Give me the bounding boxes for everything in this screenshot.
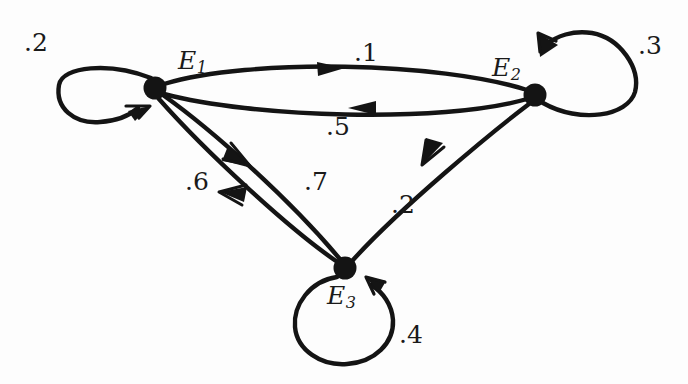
node-e3[interactable] <box>334 257 357 280</box>
node-label-e2-subscript: 2 <box>511 65 521 84</box>
edge-weight-e1-e1: .2 <box>24 30 48 55</box>
edge-weight-e1-e3: .7 <box>304 169 328 194</box>
node-e1[interactable] <box>144 77 167 100</box>
node-label-e1-subscript: 1 <box>197 58 207 77</box>
node-label-e2-text: E <box>492 53 510 82</box>
edge-e2-e2 <box>538 32 636 115</box>
graph-canvas <box>0 0 688 384</box>
state-transition-diagram: E1 E2 E3 .2 .3 .4 .1 .5 .7 .6 .2 <box>0 0 688 384</box>
edge-weight-e3-e1: .6 <box>185 169 209 194</box>
node-label-e3-text: E <box>327 281 345 310</box>
edge-weight-e2-e3: .2 <box>391 192 415 217</box>
node-label-e3: E3 <box>327 283 356 311</box>
edge-e2-e3 <box>353 104 529 260</box>
edge-e1-e1 <box>58 68 151 122</box>
node-e2[interactable] <box>524 84 547 107</box>
node-label-e2: E2 <box>492 55 521 83</box>
edge-weight-e2-e1: .5 <box>326 114 350 139</box>
node-label-e1: E1 <box>178 48 207 76</box>
edge-weight-e3-e3: .4 <box>399 322 423 347</box>
node-label-e1-text: E <box>178 46 196 75</box>
node-label-e3-subscript: 3 <box>346 293 356 312</box>
edge-weight-e2-e2: .3 <box>638 33 662 58</box>
edge-weight-e1-e2: .1 <box>354 40 378 65</box>
edge-e1-e2 <box>164 62 527 90</box>
